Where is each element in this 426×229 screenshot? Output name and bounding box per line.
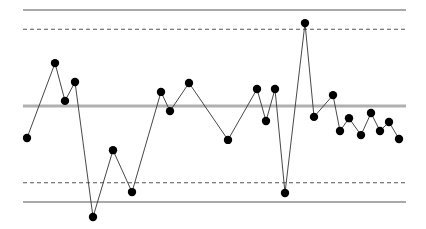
- data-point: [224, 136, 232, 144]
- data-point: [23, 134, 31, 142]
- data-point: [157, 88, 165, 96]
- data-point: [185, 79, 193, 87]
- data-point: [271, 85, 279, 93]
- data-point: [281, 189, 289, 197]
- control-chart: [0, 0, 426, 229]
- data-point: [166, 107, 174, 115]
- data-point: [376, 127, 384, 135]
- data-point: [262, 117, 270, 125]
- data-point: [71, 78, 79, 86]
- data-point: [301, 19, 309, 27]
- data-point: [395, 135, 403, 143]
- data-point: [357, 131, 365, 139]
- series-line: [27, 23, 399, 217]
- data-point: [61, 97, 69, 105]
- data-point: [109, 146, 117, 154]
- data-point: [51, 59, 59, 67]
- data-point: [89, 213, 97, 221]
- data-point: [329, 91, 337, 99]
- data-series: [27, 23, 399, 217]
- data-point: [385, 118, 393, 126]
- data-point: [253, 85, 261, 93]
- data-point: [310, 113, 318, 121]
- data-point: [336, 127, 344, 135]
- data-point: [345, 114, 353, 122]
- chart-canvas: [0, 0, 426, 229]
- data-point: [128, 188, 136, 196]
- data-point: [367, 109, 375, 117]
